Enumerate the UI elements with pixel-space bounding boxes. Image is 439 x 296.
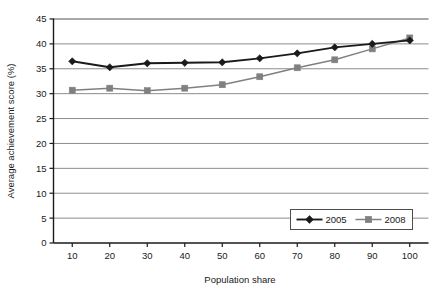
data-point-marker (219, 82, 225, 88)
legend-label-2008: 2008 (385, 214, 406, 225)
x-axis-tick-label: 10 (67, 250, 78, 261)
x-axis-tick-label: 30 (142, 250, 153, 261)
y-axis-tick-label: 45 (36, 13, 47, 24)
y-axis-tick-label: 40 (36, 38, 47, 49)
legend-marker-square-icon (365, 216, 371, 222)
x-axis-tick-label: 60 (254, 250, 265, 261)
x-axis-tick-label: 40 (179, 250, 190, 261)
data-point-marker (144, 88, 150, 94)
chart-figure: 051015202530354045 102030405060708090100… (0, 0, 439, 296)
y-axis-tick-label: 5 (41, 213, 46, 224)
y-axis-tick-label: 10 (36, 188, 47, 199)
y-axis-tick-label: 30 (36, 88, 47, 99)
y-axis-tick-label: 20 (36, 138, 47, 149)
y-axis-tick-label: 25 (36, 113, 47, 124)
legend-label-2005: 2005 (326, 214, 347, 225)
data-point-marker (182, 85, 188, 91)
data-point-marker (69, 87, 75, 93)
y-axis-tick-label: 15 (36, 163, 47, 174)
y-axis-tick-label: 0 (41, 237, 46, 248)
x-axis-tick-label: 70 (292, 250, 303, 261)
y-axis-tick-label: 35 (36, 63, 47, 74)
x-axis-tick-label: 20 (104, 250, 115, 261)
achievement-score-line-chart: 051015202530354045 102030405060708090100… (0, 0, 439, 296)
data-point-marker (332, 57, 338, 63)
data-point-marker (294, 65, 300, 71)
data-point-marker (107, 85, 113, 91)
data-point-marker (257, 74, 263, 80)
x-axis-tick-label: 50 (217, 250, 228, 261)
x-axis-tick-label: 80 (329, 250, 340, 261)
x-axis-title: Population share (204, 274, 275, 285)
x-axis-tick-label: 100 (402, 250, 418, 261)
y-axis-title: Average achievement score (%) (5, 64, 16, 199)
x-axis-tick-label: 90 (367, 250, 378, 261)
chart-legend: 20052008 (291, 210, 413, 230)
